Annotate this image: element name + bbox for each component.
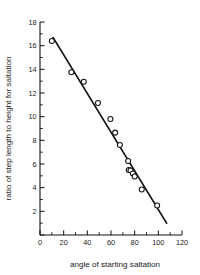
y-tick-label: 16 <box>28 41 36 50</box>
data-point <box>69 70 74 75</box>
x-tick-label: 120 <box>176 238 188 247</box>
x-tick-label: 100 <box>152 238 164 247</box>
x-tick-label: 60 <box>107 238 115 247</box>
data-point <box>139 187 144 192</box>
scatter-plot: 24681012141618 020406080100120 angle of … <box>0 0 200 275</box>
y-tick-label: 14 <box>28 65 36 74</box>
y-tick-label: 4 <box>32 183 36 192</box>
x-tick-label: 0 <box>38 238 42 247</box>
plot-axes <box>40 22 182 235</box>
x-tick-label: 40 <box>83 238 91 247</box>
y-tick-label: 2 <box>32 207 36 216</box>
x-tick-label: 20 <box>60 238 68 247</box>
x-axis-ticks <box>40 230 182 235</box>
data-point <box>155 203 160 208</box>
y-tick-label: 8 <box>32 136 36 145</box>
fit-line-group <box>53 37 167 223</box>
data-point <box>81 79 86 84</box>
data-point <box>49 38 54 43</box>
y-tick-label: 10 <box>28 112 36 121</box>
y-tick-label: 6 <box>32 160 36 169</box>
y-tick-label: 18 <box>28 18 36 27</box>
y-axis-title: ratio of step length to height for salta… <box>4 57 13 201</box>
x-axis-tick-labels: 020406080100120 <box>38 238 188 247</box>
data-point <box>132 174 137 179</box>
y-axis-ticks <box>40 22 45 235</box>
x-tick-label: 80 <box>131 238 139 247</box>
data-point <box>117 143 122 148</box>
data-point <box>108 117 113 122</box>
y-tick-label: 12 <box>28 89 36 98</box>
regression-line <box>53 37 167 223</box>
data-point <box>95 101 100 106</box>
data-point <box>126 159 131 164</box>
y-axis-tick-labels: 24681012141618 <box>28 18 36 216</box>
data-point <box>113 130 118 135</box>
x-axis-title: angle of starting saltation <box>70 260 160 269</box>
chart-figure: 24681012141618 020406080100120 angle of … <box>0 0 200 275</box>
